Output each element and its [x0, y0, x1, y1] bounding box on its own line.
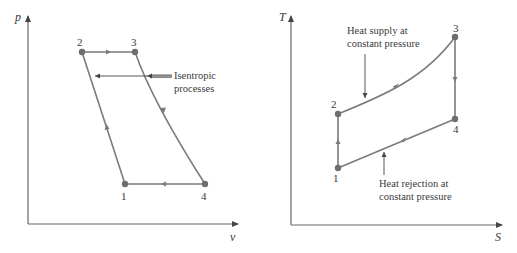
ts-point-1 — [335, 165, 341, 171]
ts-process-4-1 — [338, 119, 455, 168]
ts-point-2-label: 2 — [331, 98, 337, 110]
ts-heat-rejection-line1: Heat rejection at — [379, 178, 448, 190]
ts-heat-supply-line1: Heat supply at — [347, 25, 408, 37]
pv-process-1-2 — [82, 52, 125, 184]
ts-flow-arrow-3-4 — [453, 77, 458, 82]
ts-heat-rejection-line2: constant pressure — [379, 191, 452, 203]
ts-flow-arrow-1-2 — [336, 139, 341, 144]
pv-annotation-arrowhead-short — [147, 74, 152, 79]
pv-point-1-label: 1 — [121, 190, 127, 202]
ts-heat-supply-line2: constant pressure — [347, 38, 420, 50]
ts-point-3-label: 3 — [453, 22, 459, 34]
pv-annotation-line2: processes — [174, 83, 214, 95]
ts-y-axis-label: T — [279, 11, 286, 23]
pv-point-2 — [79, 49, 85, 55]
pv-point-2-label: 2 — [77, 36, 83, 48]
pv-point-4 — [202, 181, 208, 187]
ts-x-axis-label: S — [495, 231, 501, 243]
pv-point-1 — [122, 181, 128, 187]
pv-flow-arrow-2-3 — [106, 50, 111, 55]
ts-point-2 — [335, 111, 341, 117]
ts-point-3 — [452, 34, 458, 40]
pv-point-3-label: 3 — [131, 36, 137, 48]
pv-y-axis-label: p — [15, 11, 21, 23]
pv-point-4-label: 4 — [201, 190, 207, 202]
pv-point-3 — [132, 49, 138, 55]
ts-point-1-label: 1 — [333, 172, 339, 184]
ts-point-4 — [452, 116, 458, 122]
brayton-cycle-figure: p v 2 3 1 4 Isentropic processes T S 2 3… — [0, 0, 517, 253]
pv-flow-arrow-4-1 — [161, 182, 166, 187]
pv-annotation-line1: Isentropic — [174, 70, 216, 82]
pv-x-axis-label: v — [230, 231, 235, 243]
ts-point-4-label: 4 — [453, 123, 459, 135]
